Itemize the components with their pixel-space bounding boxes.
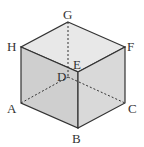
vertex-label-a: A [7,101,17,116]
vertex-label-g: G [63,7,72,22]
vertex-label-f: F [127,39,134,54]
vertex-label-c: C [128,101,137,116]
vertex-label-d: D [57,69,66,84]
vertex-label-e: E [73,57,81,72]
vertex-label-h: H [7,39,16,54]
vertex-label-b: B [72,131,81,146]
cube-diagram: G H F E D A C B [0,0,144,147]
